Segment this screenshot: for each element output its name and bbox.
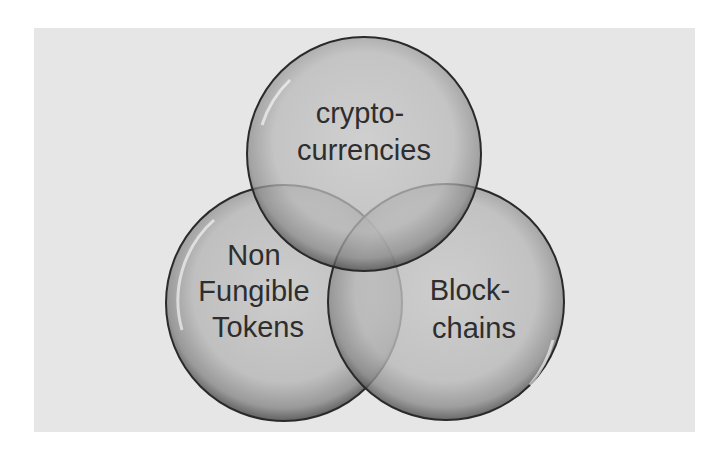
venn-diagram-figure: crypto- currencies Non Fungible Tokens B… — [0, 0, 726, 453]
venn-diagram: crypto- currencies Non Fungible Tokens B… — [0, 0, 726, 453]
